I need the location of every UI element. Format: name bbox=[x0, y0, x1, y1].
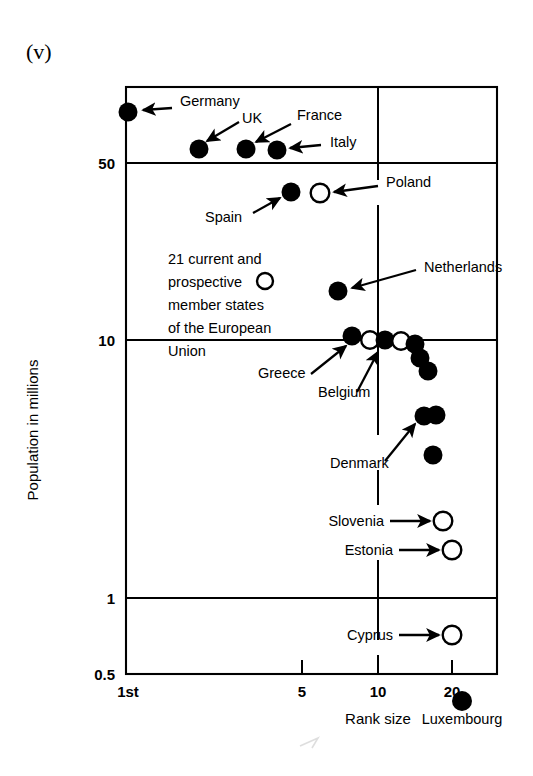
x-tick-label-5: 5 bbox=[298, 683, 306, 700]
data-point-netherlands bbox=[329, 282, 348, 301]
data-point-greece bbox=[343, 327, 362, 346]
label-germany: Germany bbox=[180, 93, 240, 109]
data-point-germany bbox=[119, 103, 138, 122]
data-point-luxembourg bbox=[452, 691, 472, 711]
label-estonia: Estonia bbox=[345, 542, 394, 558]
label-slovenia: Slovenia bbox=[328, 513, 385, 529]
label-uk: UK bbox=[242, 110, 262, 126]
y-tick-label-50: 50 bbox=[98, 155, 115, 172]
label-poland: Poland bbox=[386, 174, 431, 190]
x-axis-title: Rank size bbox=[345, 710, 411, 727]
label-belgium: Belgium bbox=[318, 384, 370, 400]
y-tick-label-1: 1 bbox=[107, 590, 115, 607]
data-point-estonia bbox=[443, 541, 462, 560]
legend-open-circle-icon bbox=[257, 273, 273, 289]
y-axis-title: Population in millions bbox=[24, 360, 41, 501]
chart-background bbox=[0, 0, 533, 776]
legend-line-1: 21 current and bbox=[168, 251, 262, 267]
data-point-cyprus bbox=[443, 626, 462, 645]
label-spain: Spain bbox=[205, 209, 242, 225]
legend-line-5: Union bbox=[168, 343, 206, 359]
data-point-uk bbox=[190, 140, 209, 159]
data-point-slovenia bbox=[434, 512, 453, 531]
x-tick-label-1st: 1st bbox=[117, 683, 139, 700]
label-greece: Greece bbox=[258, 365, 306, 381]
label-cyprus: Cyprus bbox=[347, 627, 393, 643]
legend-line-2: prospective bbox=[168, 274, 242, 290]
data-point-austria bbox=[419, 362, 438, 381]
data-point-finland bbox=[427, 406, 446, 425]
x-tick-label-10: 10 bbox=[370, 683, 387, 700]
data-point-ireland bbox=[424, 446, 443, 465]
y-tick-label-0point5: 0.5 bbox=[94, 666, 115, 683]
data-point-spain bbox=[282, 183, 301, 202]
figure-container: (v) 50 10 1 0.5 1st 5 10 20 Population i… bbox=[0, 0, 533, 776]
scatter-chart: (v) 50 10 1 0.5 1st 5 10 20 Population i… bbox=[0, 0, 533, 776]
label-denmark: Denmark bbox=[330, 455, 390, 471]
legend-line-3: member states bbox=[168, 297, 264, 313]
label-luxembourg: Luxembourg bbox=[422, 711, 503, 727]
label-france: France bbox=[297, 107, 342, 123]
panel-label: (v) bbox=[26, 39, 52, 64]
label-italy: Italy bbox=[330, 134, 357, 150]
data-point-france bbox=[237, 140, 256, 159]
label-netherlands: Netherlands bbox=[424, 259, 502, 275]
legend-line-4: of the European bbox=[168, 320, 271, 336]
data-point-poland bbox=[311, 184, 330, 203]
y-tick-label-10: 10 bbox=[98, 332, 115, 349]
data-point-italy bbox=[268, 141, 287, 160]
